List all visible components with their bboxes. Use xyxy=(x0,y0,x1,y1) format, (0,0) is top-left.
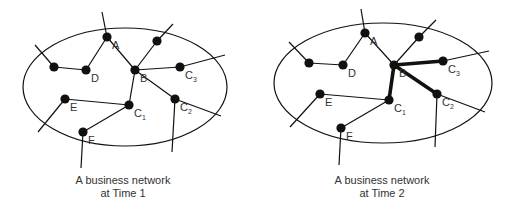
node-top xyxy=(152,36,161,45)
tie-b-top xyxy=(135,41,157,70)
node-label-c2: C2 xyxy=(180,101,192,115)
node-label-a: A xyxy=(112,39,120,51)
tie-c1-f xyxy=(341,100,389,128)
external-link-c2 xyxy=(172,99,175,152)
node-label-f: F xyxy=(346,130,353,142)
network-boundary-ellipse xyxy=(274,23,492,143)
caption-time-1-line1: A business network xyxy=(53,174,193,187)
node-label-c3: C3 xyxy=(185,69,197,83)
tie-b-top xyxy=(394,37,419,65)
node-label-c1: C1 xyxy=(394,102,406,116)
node-b xyxy=(130,65,139,74)
node-label-b: B xyxy=(140,72,147,84)
caption-time-2: A business network at Time 2 xyxy=(312,174,452,200)
node-label-b: B xyxy=(399,67,406,79)
node-top xyxy=(414,32,423,41)
node-c2 xyxy=(170,94,179,103)
node-d xyxy=(338,60,347,69)
external-link-c2 xyxy=(435,94,437,147)
network-boundary-ellipse xyxy=(23,28,227,146)
node-label-c1: C1 xyxy=(134,107,146,121)
tie-left-d xyxy=(309,63,343,65)
node-label-d: D xyxy=(91,72,99,84)
node-left xyxy=(49,62,58,71)
node-label-c3: C3 xyxy=(448,63,460,77)
strong-tie-b-c3 xyxy=(394,61,443,65)
node-label-a: A xyxy=(370,35,378,47)
node-d xyxy=(81,65,90,74)
node-label-d: D xyxy=(348,67,356,79)
tie-b-c3 xyxy=(135,67,180,70)
node-label-f: F xyxy=(88,134,95,146)
caption-time-2-line1: A business network xyxy=(312,174,452,187)
node-label-e: E xyxy=(70,101,77,113)
node-label-c2: C2 xyxy=(442,96,454,110)
node-c1 xyxy=(384,95,393,104)
node-e xyxy=(315,89,324,98)
node-b xyxy=(389,60,398,69)
strong-tie-b-c1 xyxy=(389,65,394,100)
tie-a-d xyxy=(343,33,365,65)
external-link-e xyxy=(290,94,320,127)
node-c3 xyxy=(438,56,447,65)
external-link-c3 xyxy=(443,51,489,61)
node-c2 xyxy=(432,89,441,98)
tie-c1-f xyxy=(83,105,129,132)
external-link-c3 xyxy=(180,55,225,67)
external-link-e xyxy=(38,99,65,132)
caption-time-1: A business network at Time 1 xyxy=(53,174,193,200)
network-diagram-time-1: ADBC3EC1C2F xyxy=(23,12,227,168)
node-c1 xyxy=(124,100,133,109)
tie-b-c1 xyxy=(129,70,135,105)
node-a xyxy=(360,28,369,37)
network-diagram-time-2: ADBC3EC1C2F xyxy=(274,9,492,165)
caption-time-1-line2: at Time 1 xyxy=(53,187,193,200)
node-f xyxy=(78,127,87,136)
node-f xyxy=(336,123,345,132)
external-link-f xyxy=(81,132,83,168)
caption-time-2-line2: at Time 2 xyxy=(312,187,452,200)
node-left xyxy=(304,58,313,67)
node-label-e: E xyxy=(325,96,332,108)
tie-left-d xyxy=(54,67,86,70)
node-c3 xyxy=(175,62,184,71)
external-link-f xyxy=(339,128,341,165)
tie-a-d xyxy=(86,37,107,70)
node-e xyxy=(60,94,69,103)
node-a xyxy=(102,32,111,41)
